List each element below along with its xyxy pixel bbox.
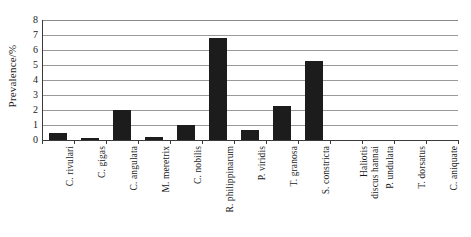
x-tick-label: T. dorsatus	[417, 146, 431, 234]
x-tick	[426, 140, 427, 144]
x-tick-label: P. viridis	[257, 146, 271, 234]
bar	[273, 106, 291, 140]
y-tick-label: 3	[22, 90, 38, 100]
x-tick-label: P. undulata	[385, 146, 399, 234]
x-tick	[394, 140, 395, 144]
x-tick-label: C. angulata	[129, 146, 143, 234]
x-tick-label: M. meretrix	[161, 146, 175, 234]
x-tick-label-line: Haliotis	[359, 146, 370, 234]
x-tick-label: S. constricta	[321, 146, 335, 234]
bar-chart: Prevalence/% 876543210 C. rivulariC. gig…	[0, 0, 471, 237]
y-tick-label: 4	[22, 75, 38, 85]
bar	[113, 110, 131, 140]
bar	[49, 133, 67, 140]
x-tick	[42, 140, 43, 144]
y-tick-label: 5	[22, 60, 38, 70]
x-tick	[74, 140, 75, 144]
bar	[209, 38, 227, 140]
bars-layer	[42, 20, 458, 140]
bar	[241, 130, 259, 140]
x-tick	[234, 140, 235, 144]
x-tick	[266, 140, 267, 144]
y-tick-label: 8	[22, 15, 38, 25]
bar	[305, 61, 323, 140]
x-tick	[106, 140, 107, 144]
y-tick-label: 1	[22, 120, 38, 130]
y-axis-tick-labels: 876543210	[22, 14, 38, 146]
x-axis-tick-labels: C. rivulariC. gigasC. angulataM. meretri…	[42, 146, 458, 237]
x-tick-label: Haliotisdiscus hannai	[359, 146, 385, 234]
x-tick	[138, 140, 139, 144]
x-tick	[298, 140, 299, 144]
x-tick-label: C. aniquate	[449, 146, 463, 234]
x-tick	[170, 140, 171, 144]
x-axis-ticks	[42, 140, 458, 145]
x-tick-label: C. gigas	[97, 146, 111, 234]
bar	[177, 125, 195, 140]
y-tick-label: 7	[22, 30, 38, 40]
x-tick-label: C. rivulari	[65, 146, 79, 234]
x-tick	[202, 140, 203, 144]
x-tick-label-line: discus hannai	[370, 146, 381, 234]
x-tick	[330, 140, 331, 144]
y-tick-label: 6	[22, 45, 38, 55]
x-tick-label: T. granosa	[289, 146, 303, 234]
plot-area	[42, 20, 458, 140]
y-tick-label: 2	[22, 105, 38, 115]
x-tick	[362, 140, 363, 144]
x-tick	[458, 140, 459, 144]
y-axis-title: Prevalence/%	[4, 14, 20, 138]
x-tick-label: C. nobilis	[193, 146, 207, 234]
x-tick-label: R. philippinarum	[225, 146, 239, 234]
y-tick-label: 0	[22, 135, 38, 145]
